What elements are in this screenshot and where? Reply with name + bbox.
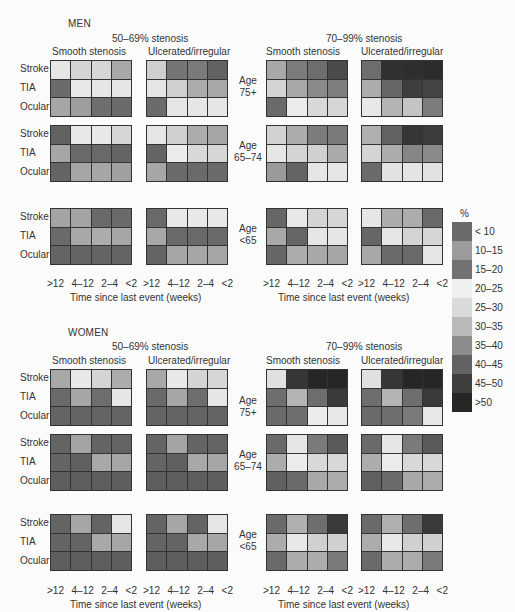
heatmap-cell [92, 389, 111, 407]
heatmap-cell [208, 472, 227, 490]
age-word: Age [230, 140, 266, 152]
heatmap-cell [51, 145, 70, 163]
heatmap-cell [188, 389, 207, 407]
age-range: 75+ [230, 87, 266, 99]
heatmap-cell [92, 228, 111, 246]
heatmap-cell [403, 552, 422, 570]
heatmap-cell [362, 98, 381, 116]
heatmap-grid [50, 208, 132, 265]
x-tick: <2 [437, 278, 448, 289]
row-label: TIA [20, 230, 36, 241]
stenosis-title-70-99: 70–99% stenosis [326, 33, 402, 44]
x-tick: 2–4 [101, 278, 118, 289]
heatmap-cell [71, 98, 90, 116]
heatmap-cell [423, 163, 442, 181]
heatmap-cell [147, 209, 166, 227]
heatmap-cell [423, 454, 442, 472]
heatmap-grid [266, 434, 348, 491]
heatmap-cell [188, 515, 207, 533]
heatmap-cell [167, 515, 186, 533]
heatmap-cell [382, 389, 401, 407]
heatmap-cell [267, 209, 286, 227]
heatmap-cell [92, 454, 111, 472]
heatmap-cell [287, 209, 306, 227]
legend-swatch [452, 241, 472, 260]
heatmap-cell [423, 552, 442, 570]
heatmap-cell [362, 454, 381, 472]
heatmap-cell [208, 145, 227, 163]
heatmap-cell [267, 515, 286, 533]
heatmap-cell [112, 389, 131, 407]
heatmap-cell [92, 472, 111, 490]
legend-item: 35–40 [452, 336, 503, 355]
heatmap-cell [382, 228, 401, 246]
heatmap-cell [167, 228, 186, 246]
heatmap-cell [308, 163, 327, 181]
heatmap-cell [328, 98, 347, 116]
x-axis-label: Time since last event (weeks) [278, 599, 409, 610]
legend-swatch [452, 298, 472, 317]
legend-label: 40–45 [475, 359, 503, 370]
heatmap-cell [188, 552, 207, 570]
legend-swatch [452, 336, 472, 355]
row-label: Ocular [20, 555, 49, 566]
heatmap-grid [50, 60, 132, 117]
heatmap-cell [92, 145, 111, 163]
heatmap-cell [328, 515, 347, 533]
heatmap-cell [308, 228, 327, 246]
heatmap-cell [267, 370, 286, 388]
heatmap-cell [382, 61, 401, 79]
heatmap-cell [112, 407, 131, 425]
heatmap-cell [71, 407, 90, 425]
legend-swatch [452, 260, 472, 279]
x-tick: >12 [143, 585, 160, 596]
x-tick: 4–12 [168, 278, 190, 289]
heatmap-cell [308, 435, 327, 453]
heatmap-cell [403, 407, 422, 425]
x-tick: 2–4 [412, 585, 429, 596]
heatmap-cell [188, 370, 207, 388]
heatmap-cell [362, 145, 381, 163]
age-range: 75+ [230, 407, 266, 419]
heatmap-cell [51, 515, 70, 533]
heatmap-grid [50, 514, 132, 571]
heatmap-cell [112, 515, 131, 533]
heatmap-cell [167, 407, 186, 425]
heatmap-grid [266, 208, 348, 265]
age-label: Age75+ [230, 395, 266, 419]
heatmap-cell [188, 145, 207, 163]
heatmap-cell [147, 246, 166, 264]
sex-title: WOMEN [68, 327, 108, 338]
heatmap-cell [167, 534, 186, 552]
heatmap-cell [92, 80, 111, 98]
stenosis-title-70-99: 70–99% stenosis [326, 341, 402, 352]
heatmap-cell [51, 472, 70, 490]
heatmap-cell [287, 246, 306, 264]
heatmap-cell [71, 435, 90, 453]
row-label: Stroke [20, 517, 49, 528]
legend: < 1010–1515–2020–2525–3030–3535–4040–454… [452, 222, 503, 412]
x-tick: >12 [143, 278, 160, 289]
x-axis-ticks: >124–122–4<2 [358, 585, 448, 596]
heatmap-cell [328, 163, 347, 181]
heatmap-grid [146, 60, 228, 117]
x-tick: <2 [126, 585, 137, 596]
heatmap-cell [147, 228, 166, 246]
row-label: TIA [20, 82, 36, 93]
heatmap-cell [51, 209, 70, 227]
heatmap-cell [147, 552, 166, 570]
x-axis-ticks: >124–122–4<2 [47, 278, 137, 289]
heatmap-cell [267, 228, 286, 246]
heatmap-cell [167, 163, 186, 181]
heatmap-cell [328, 61, 347, 79]
heatmap-cell [267, 163, 286, 181]
heatmap-cell [287, 126, 306, 144]
x-tick: <2 [342, 585, 353, 596]
heatmap-cell [147, 454, 166, 472]
heatmap-cell [328, 407, 347, 425]
x-tick: <2 [342, 278, 353, 289]
legend-item: 15–20 [452, 260, 503, 279]
heatmap-cell [51, 407, 70, 425]
heatmap-cell [423, 407, 442, 425]
legend-item: 25–30 [452, 298, 503, 317]
